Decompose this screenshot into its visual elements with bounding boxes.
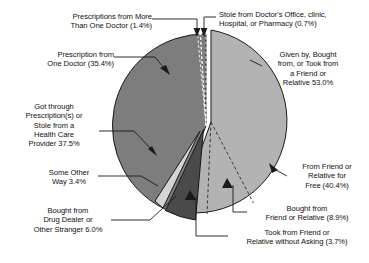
label-given-by-bought-from-friend: Given by, Bought from, or Took from a Fr… bbox=[265, 50, 351, 87]
label-got-through-prescription-or-stole: Got through Prescription(s) or Stole fro… bbox=[8, 102, 100, 148]
label-prescriptions-more-than-one-doctor: Prescriptions from More Than One Doctor … bbox=[18, 12, 152, 31]
label-took-from-friend-without-asking: Took from Friend or Relative without Ask… bbox=[230, 228, 364, 247]
leader-prescriptions-more-than-one bbox=[152, 19, 197, 30]
label-bought-from-friend-or-relative: Bought from Friend or Relative (8.9%) bbox=[249, 204, 365, 223]
label-prescription-from-one-doctor: Prescription from One Doctor (35.4%) bbox=[22, 50, 114, 69]
leader-from-friend-free bbox=[276, 170, 287, 176]
label-stole-from-doctors-office: Stole from Doctor's Office, clinic, Hosp… bbox=[219, 10, 369, 29]
label-some-other-way: Some Other Way 3.4% bbox=[40, 168, 98, 187]
label-bought-from-drug-dealer: Bought from Drug Dealer or Other Strange… bbox=[25, 206, 111, 234]
label-from-friend-or-relative-for-free: From Friend or Relative for Free (40.4%) bbox=[290, 162, 364, 190]
chart-figure: Prescriptions from More Than One Doctor … bbox=[0, 0, 369, 263]
